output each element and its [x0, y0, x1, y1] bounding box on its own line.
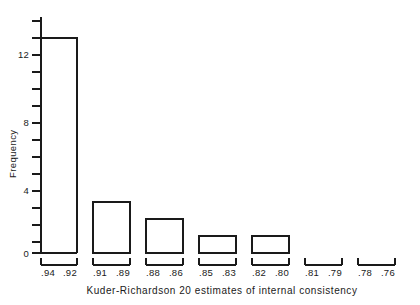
x-tick-label-bin-7-left: .78 — [358, 267, 372, 278]
y-tick-label-12: 12 — [18, 49, 29, 60]
bar-bin-3 — [146, 219, 183, 253]
x-tick-label-bin-3-left: .88 — [146, 267, 160, 278]
x-axis-brackets — [41, 258, 395, 265]
x-bracket-bin-3 — [146, 258, 183, 265]
bar-bin-5 — [252, 236, 289, 253]
x-tick-label-bin-6-right: .79 — [328, 267, 342, 278]
x-tick-label-bin-1-right: .92 — [63, 267, 77, 278]
x-axis-title: Kuder-Richardson 20 estimates of interna… — [87, 285, 358, 296]
x-tick-label-bin-6-left: .81 — [305, 267, 319, 278]
x-bracket-bin-1 — [41, 258, 77, 265]
y-tick-label-8: 8 — [24, 117, 29, 128]
x-tick-label-bin-7-right: .76 — [381, 267, 395, 278]
x-tick-label-bin-5-right: .80 — [275, 267, 289, 278]
bar-bin-1 — [41, 38, 77, 253]
x-tick-label-bin-3-right: .86 — [169, 267, 183, 278]
histogram-plot: 12 8 4 0 Frequency — [0, 0, 420, 305]
x-bracket-bin-7 — [358, 258, 395, 265]
y-tick-label-4: 4 — [24, 185, 29, 196]
bar-bin-2 — [93, 202, 130, 253]
x-tick-label-bin-4-left: .85 — [199, 267, 213, 278]
bars-group — [41, 38, 289, 253]
y-axis-title: Frequency — [7, 130, 18, 178]
x-axis-tick-labels: .94 .92 .91 .89 .88 .86 .85 .83 .82 .80 … — [41, 267, 395, 278]
histogram-figure: 12 8 4 0 Frequency — [0, 0, 420, 305]
x-bracket-bin-5 — [252, 258, 289, 265]
x-bracket-bin-2 — [93, 258, 130, 265]
x-tick-label-bin-5-left: .82 — [252, 267, 266, 278]
x-tick-label-bin-2-right: .89 — [116, 267, 130, 278]
y-tick-label-0: 0 — [24, 248, 29, 259]
x-tick-label-bin-2-left: .91 — [93, 267, 107, 278]
x-tick-label-bin-1-left: .94 — [41, 267, 55, 278]
x-bracket-bin-4 — [199, 258, 236, 265]
bar-bin-4 — [199, 236, 236, 253]
y-axis-ticks — [32, 21, 41, 253]
x-bracket-bin-6 — [305, 258, 342, 265]
x-tick-label-bin-4-right: .83 — [222, 267, 236, 278]
